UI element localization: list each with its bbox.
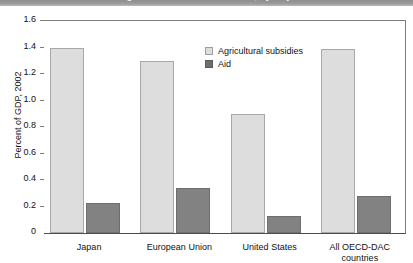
y-axis-tick-label: 0 bbox=[31, 226, 36, 236]
y-axis-tick-label: 0.4 bbox=[23, 173, 36, 183]
legend-swatch-aid bbox=[205, 60, 213, 68]
bar-aid bbox=[176, 188, 210, 233]
bar-subsidies bbox=[321, 49, 355, 233]
y-axis-tick-label: 1.6 bbox=[23, 14, 36, 24]
y-axis-tick-label: 0.6 bbox=[23, 147, 36, 157]
bar-subsidies bbox=[140, 61, 174, 233]
legend-label: Aid bbox=[218, 59, 231, 69]
legend-swatch-subsidies bbox=[205, 47, 213, 55]
bar-aid bbox=[267, 216, 301, 233]
y-axis-tick-label: 0.2 bbox=[23, 200, 36, 210]
legend-item[interactable]: Aid bbox=[205, 59, 303, 69]
y-axis-title: Percent of GDP, 2002 bbox=[13, 40, 23, 190]
bar-subsidies bbox=[231, 114, 265, 233]
y-axis-tick-label: 1.4 bbox=[23, 41, 36, 51]
legend-label: Agricultural subsidies bbox=[218, 46, 303, 56]
y-axis-tick-label: 0.8 bbox=[23, 120, 36, 130]
bar-subsidies bbox=[50, 48, 84, 234]
bar-group bbox=[140, 21, 210, 233]
x-axis-label: All OECD-DACcountries bbox=[305, 242, 413, 263]
chart-title-text: Agricultural subsidies and aid, by major… bbox=[120, 0, 333, 1]
x-axis-label-line: countries bbox=[305, 253, 413, 263]
bar-chart: Percent of GDP, 2002 00.20.40.60.81.01.2… bbox=[0, 6, 413, 263]
bar-group bbox=[50, 21, 120, 233]
bar-aid bbox=[86, 203, 120, 233]
y-axis-tick-label: 1.2 bbox=[23, 67, 36, 77]
legend-item[interactable]: Agricultural subsidies bbox=[205, 46, 303, 56]
bar-aid bbox=[357, 196, 391, 233]
chart-legend: Agricultural subsidiesAid bbox=[205, 46, 303, 72]
x-axis-label-line: All OECD-DAC bbox=[305, 242, 413, 253]
bar-group bbox=[321, 21, 391, 233]
y-axis-tick-label: 1.0 bbox=[23, 94, 36, 104]
